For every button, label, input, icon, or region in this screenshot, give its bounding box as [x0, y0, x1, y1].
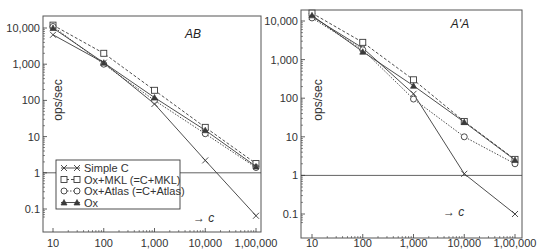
legend: Simple COx+MKL (=C+MKL)Ox+Atlas (=C+Atla… — [56, 160, 185, 209]
y-tick-label: 10,000 — [6, 22, 40, 34]
x-tick-label: 10 — [306, 237, 318, 249]
legend-item: Ox+Atlas (=C+Atlas) — [84, 185, 185, 197]
x-tick-label: 100 — [354, 237, 372, 249]
x-tick-label: 1,000 — [400, 237, 428, 249]
y-axis-label: ops/sec — [311, 79, 325, 120]
x-tick-label: 10,000 — [188, 237, 222, 249]
legend-item: Simple C — [84, 162, 129, 174]
y-tick-label: 1,000 — [12, 58, 40, 70]
y-tick-label: 100 — [280, 92, 298, 104]
plot-frame — [301, 10, 522, 238]
y-tick-label: 10 — [28, 131, 40, 143]
x-tick-label: 1,00,000 — [494, 237, 537, 249]
panel-title: AB — [184, 27, 201, 41]
x-tick-label: 10,000 — [447, 237, 481, 249]
panel-title: A'A — [450, 17, 469, 31]
y-tick-label: 0.1 — [283, 208, 298, 220]
legend-item: Ox+MKL (=C+MKL) — [84, 174, 180, 186]
chart-canvas: 0.11101001,00010,000101001,00010,0001,00… — [0, 0, 544, 250]
y-tick-label: 1 — [292, 169, 298, 181]
y-tick-label: 100 — [22, 94, 40, 106]
x-tick-label: 10 — [47, 237, 59, 249]
y-axis-label: ops/sec — [51, 79, 65, 120]
legend-item: Ox — [84, 197, 99, 209]
y-tick-label: 0.1 — [25, 203, 40, 215]
y-tick-label: 1,000 — [270, 54, 298, 66]
x-tick-label: 1,000 — [141, 237, 169, 249]
y-tick-label: 10,000 — [264, 15, 298, 27]
chart-panel-ab: 0.11101001,00010,000101001,00010,0001,00… — [6, 16, 277, 249]
x-tick-label: 1,00,000 — [235, 237, 278, 249]
chart-panel-aa: 0.11101001,00010,000101001,00010,0001,00… — [264, 10, 536, 249]
x-annotation: → c — [443, 205, 464, 219]
y-tick-label: 10 — [286, 131, 298, 143]
x-annotation: → c — [193, 211, 214, 225]
y-tick-label: 1 — [34, 167, 40, 179]
x-tick-label: 100 — [95, 237, 113, 249]
